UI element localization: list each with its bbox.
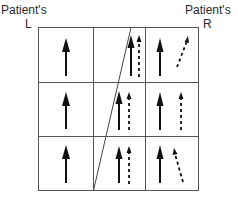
column-right-arrows — [157, 36, 190, 183]
arrowhead-icon — [173, 148, 178, 155]
arrowhead-icon — [116, 91, 123, 104]
arrowhead-icon — [179, 92, 184, 99]
column-left-arrows — [62, 38, 70, 183]
diagram-canvas — [0, 0, 238, 199]
arrowhead-icon — [116, 146, 123, 159]
dashed-arrow-tilted-left-icon — [175, 154, 183, 182]
arrowhead-icon — [127, 146, 132, 153]
arrowhead-icon — [185, 36, 190, 43]
dashed-arrow-tilted-right-icon — [177, 41, 187, 67]
arrowhead-icon — [137, 35, 142, 42]
arrowhead-icon — [157, 92, 164, 106]
diagonal-line — [94, 28, 132, 191]
arrowhead-icon — [127, 92, 132, 99]
column-middle-arrows — [116, 35, 142, 184]
arrowhead-icon — [157, 145, 164, 159]
arrowhead-icon — [157, 38, 164, 52]
arrowhead-icon — [62, 92, 70, 106]
arrowhead-icon — [62, 38, 70, 52]
arrowhead-icon — [62, 145, 70, 159]
